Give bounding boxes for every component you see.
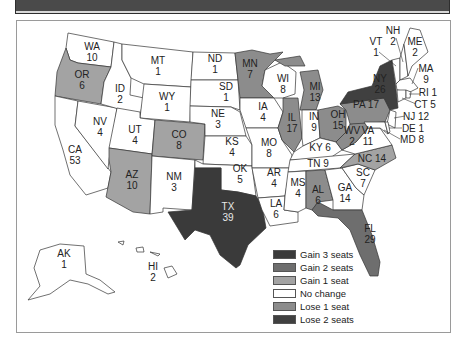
svg-text:MD 8: MD 8 xyxy=(400,134,424,145)
svg-text:RI 1: RI 1 xyxy=(419,87,438,98)
svg-text:FL29: FL29 xyxy=(364,223,376,245)
legend-item-gain2: Gain 2 seats xyxy=(273,261,354,274)
svg-text:TN 9: TN 9 xyxy=(307,158,329,169)
legend-item-gain3: Gain 3 seats xyxy=(273,248,354,261)
svg-text:VA11: VA11 xyxy=(362,125,375,147)
legend-label: Gain 2 seats xyxy=(300,262,353,273)
svg-text:TX39: TX39 xyxy=(222,201,235,223)
svg-text:DE 1: DE 1 xyxy=(402,123,425,134)
svg-text:KY 6: KY 6 xyxy=(309,142,331,153)
legend-swatch xyxy=(273,302,296,311)
legend-item-gain1: Gain 1 seat xyxy=(273,274,354,287)
svg-text:VT1: VT1 xyxy=(370,36,383,58)
legend-swatch xyxy=(273,263,296,272)
svg-text:NC 14: NC 14 xyxy=(358,153,387,164)
svg-text:NY26: NY26 xyxy=(373,73,387,95)
legend-item-lose1: Lose 1 seat xyxy=(273,300,354,313)
legend-label: No change xyxy=(300,288,346,299)
legend-swatch xyxy=(273,289,296,298)
legend-label: Gain 3 seats xyxy=(300,249,353,260)
legend-swatch xyxy=(273,250,296,259)
legend-item-nochange: No change xyxy=(273,287,354,300)
svg-text:HI2: HI2 xyxy=(148,261,158,283)
svg-text:AZ10: AZ10 xyxy=(126,169,139,191)
svg-text:GA14: GA14 xyxy=(338,182,353,204)
legend-item-lose2: Lose 2 seats xyxy=(273,313,354,326)
svg-text:NH2: NH2 xyxy=(386,25,400,47)
legend: Gain 3 seats Gain 2 seats Gain 1 seat No… xyxy=(273,248,354,326)
state-ak xyxy=(28,244,115,300)
legend-label: Lose 1 seat xyxy=(300,301,349,312)
legend-label: Lose 2 seats xyxy=(300,314,354,325)
svg-text:MI13: MI13 xyxy=(309,81,321,103)
legend-label: Gain 1 seat xyxy=(300,275,349,286)
svg-text:PA 17: PA 17 xyxy=(353,99,379,110)
svg-text:CA53: CA53 xyxy=(68,144,82,166)
svg-text:MA9: MA9 xyxy=(419,63,434,85)
legend-swatch xyxy=(273,315,296,324)
svg-text:NJ 12: NJ 12 xyxy=(403,111,430,122)
us-map: WA10 OR6 CA53 NV4 ID2 MT1 WY1 UT4 AZ10 C… xyxy=(0,0,467,347)
legend-swatch xyxy=(273,276,296,285)
svg-text:CT 5: CT 5 xyxy=(414,99,436,110)
state-ct xyxy=(397,90,406,102)
state-hi xyxy=(118,241,177,278)
